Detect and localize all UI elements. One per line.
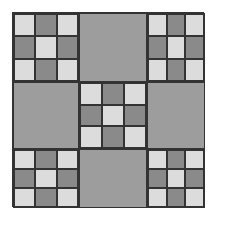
- dark-square: [35, 14, 56, 36]
- nine-patch-block: [147, 13, 205, 82]
- dark-square: [57, 36, 78, 58]
- dark-square: [102, 126, 124, 148]
- dark-square: [35, 59, 56, 81]
- dark-square: [167, 150, 186, 169]
- solid-block: [13, 82, 79, 149]
- dark-square: [167, 59, 186, 81]
- dark-square: [167, 14, 186, 36]
- light-square: [148, 14, 167, 36]
- solid-block: [79, 149, 147, 208]
- light-square: [148, 59, 167, 81]
- light-square: [185, 188, 204, 207]
- light-square: [57, 188, 78, 207]
- nine-patch-block: [13, 149, 79, 208]
- dark-square: [148, 169, 167, 188]
- light-square: [148, 150, 167, 169]
- dark-square: [185, 169, 204, 188]
- light-square: [35, 169, 56, 188]
- light-square: [185, 14, 204, 36]
- light-square: [57, 14, 78, 36]
- light-square: [14, 188, 35, 207]
- dark-square: [14, 36, 35, 58]
- light-square: [14, 59, 35, 81]
- solid-block: [147, 82, 205, 149]
- nine-patch-block: [79, 82, 147, 149]
- light-square: [35, 36, 56, 58]
- light-square: [57, 59, 78, 81]
- light-square: [167, 36, 186, 58]
- nine-patch-block: [13, 13, 79, 82]
- dark-square: [35, 150, 56, 169]
- dark-square: [14, 169, 35, 188]
- light-square: [57, 150, 78, 169]
- light-square: [124, 126, 146, 148]
- dark-square: [57, 169, 78, 188]
- nine-patch-block: [147, 149, 205, 208]
- light-square: [185, 150, 204, 169]
- quilt-grid: [12, 12, 204, 207]
- light-square: [80, 126, 102, 148]
- dark-square: [148, 36, 167, 58]
- light-square: [148, 188, 167, 207]
- dark-square: [35, 188, 56, 207]
- light-square: [14, 14, 35, 36]
- solid-block: [79, 13, 147, 82]
- dark-square: [167, 188, 186, 207]
- light-square: [14, 150, 35, 169]
- dark-square: [124, 105, 146, 127]
- light-square: [124, 83, 146, 105]
- dark-square: [80, 105, 102, 127]
- dark-square: [102, 83, 124, 105]
- dark-square: [185, 36, 204, 58]
- light-square: [80, 83, 102, 105]
- light-square: [167, 169, 186, 188]
- light-square: [185, 59, 204, 81]
- light-square: [102, 105, 124, 127]
